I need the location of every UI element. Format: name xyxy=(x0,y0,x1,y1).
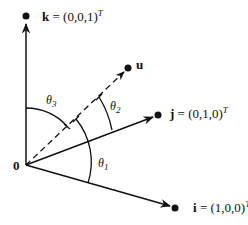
j-endpoint-dot xyxy=(155,112,162,119)
theta2-label: θ2 xyxy=(110,99,121,115)
diagram-canvas: 0 k = (0,0,1)T u j = (0,1,0)T i = (1,0,0… xyxy=(0,0,248,225)
theta3-label: θ3 xyxy=(46,93,57,109)
vector-diagram: 0 k = (0,0,1)T u j = (0,1,0)T i = (1,0,0… xyxy=(0,0,248,225)
i-label: i = (1,0,0)T xyxy=(193,199,248,215)
vector-i xyxy=(26,165,179,212)
vector-k xyxy=(23,13,30,166)
u-label: u xyxy=(136,57,143,72)
vector-j xyxy=(26,112,162,166)
angle-theta1-arc xyxy=(73,116,91,183)
u-endpoint-dot xyxy=(125,65,132,72)
origin-label: 0 xyxy=(13,158,20,173)
angle-theta3-arc xyxy=(26,108,70,129)
i-endpoint-dot xyxy=(172,205,179,212)
j-label: j = (0,1,0)T xyxy=(169,105,229,121)
theta1-label: θ1 xyxy=(98,156,108,172)
k-endpoint-dot xyxy=(23,13,30,20)
k-label: k = (0,0,1)T xyxy=(42,8,104,24)
